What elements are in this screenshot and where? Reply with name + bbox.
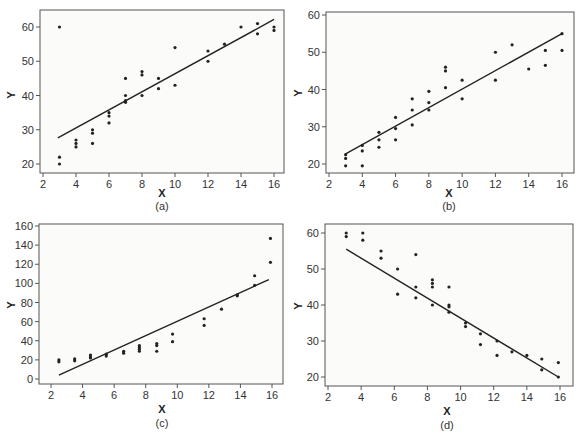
panel-caption: (a) [155, 200, 168, 212]
x-axis: 246810121416 [48, 384, 278, 401]
data-point [91, 132, 94, 135]
data-point [377, 131, 380, 134]
x-tick-label: 8 [426, 178, 432, 190]
y-tick-label: 40 [21, 335, 33, 347]
data-point [394, 138, 397, 141]
x-tick-label: 2 [326, 178, 332, 190]
x-tick-label: 12 [488, 391, 500, 403]
x-tick-label: 6 [111, 389, 117, 401]
data-point [431, 278, 434, 281]
y-axis-title: Y [292, 302, 304, 310]
y-tick-label: 40 [307, 299, 319, 311]
x-tick-label: 12 [489, 178, 501, 190]
data-point [414, 253, 417, 256]
y-tick-label: 20 [21, 354, 33, 366]
data-point [58, 156, 61, 159]
data-point [444, 66, 447, 69]
x-tick-label: 16 [556, 178, 568, 190]
y-tick-label: 50 [307, 263, 319, 275]
x-tick-label: 14 [523, 178, 535, 190]
x-tick-label: 12 [202, 178, 214, 190]
data-point [444, 86, 447, 89]
x-tick-label: 12 [203, 389, 215, 401]
data-point [411, 108, 414, 111]
data-point [58, 25, 61, 28]
x-tick-label: 2 [40, 178, 46, 190]
x-tick-label: 4 [80, 389, 86, 401]
data-point [74, 145, 77, 148]
data-point [269, 237, 272, 240]
y-tick-label: 20 [22, 158, 34, 170]
data-point [122, 352, 125, 355]
data-point [414, 285, 417, 288]
data-point [510, 43, 513, 46]
data-point [155, 350, 158, 353]
data-point [361, 149, 364, 152]
x-tick-label: 16 [266, 389, 278, 401]
data-point [107, 114, 110, 117]
y-tick-label: 30 [307, 335, 319, 347]
x-tick-label: 14 [234, 389, 246, 401]
y-axis: 2030405060 [22, 21, 40, 170]
x-tick-label: 16 [268, 178, 280, 190]
data-point [495, 354, 498, 357]
data-point [74, 138, 77, 141]
y-tick-label: 60 [307, 227, 319, 239]
y-axis-title: Y [5, 301, 17, 309]
x-axis-title: X [443, 405, 451, 417]
x-tick-label: 14 [521, 391, 533, 403]
data-point [105, 354, 108, 357]
data-point [74, 142, 77, 145]
data-point [544, 64, 547, 67]
x-tick-label: 2 [325, 391, 331, 403]
y-tick-label: 80 [21, 297, 33, 309]
data-point [414, 296, 417, 299]
x-tick-label: 10 [456, 178, 468, 190]
data-point [431, 282, 434, 285]
y-tick-label: 60 [308, 9, 320, 21]
data-point [89, 356, 92, 359]
y-tick-label: 120 [15, 258, 33, 270]
x-tick-label: 4 [359, 178, 365, 190]
data-point [171, 332, 174, 335]
data-point [256, 32, 259, 35]
data-point [540, 368, 543, 371]
x-tick-label: 8 [143, 389, 149, 401]
data-point [540, 357, 543, 360]
panel-caption: (b) [442, 200, 455, 212]
x-tick-label: 8 [139, 178, 145, 190]
data-point [396, 267, 399, 270]
data-point [171, 340, 174, 343]
data-point [344, 164, 347, 167]
y-axis: 2030405060 [307, 227, 325, 383]
data-point [58, 162, 61, 165]
data-point [91, 128, 94, 131]
data-point [461, 79, 464, 82]
data-point [124, 94, 127, 97]
plot-frame [326, 12, 574, 173]
y-tick-label: 30 [308, 121, 320, 133]
x-tick-label: 10 [454, 391, 466, 403]
y-tick-label: 20 [307, 371, 319, 383]
data-point [345, 235, 348, 238]
data-point [377, 138, 380, 141]
x-tick-label: 4 [358, 391, 364, 403]
data-point [107, 111, 110, 114]
data-point [377, 146, 380, 149]
data-point [107, 121, 110, 124]
y-axis-title: Y [292, 89, 304, 97]
x-axis-title: X [445, 187, 453, 199]
data-point [479, 332, 482, 335]
data-point [253, 274, 256, 277]
data-point [203, 317, 206, 320]
y-tick-label: 60 [21, 316, 33, 328]
x-tick-label: 16 [554, 391, 566, 403]
data-point [525, 354, 528, 357]
data-point [494, 51, 497, 54]
data-point [527, 67, 530, 70]
y-tick-label: 50 [308, 46, 320, 58]
data-point [73, 359, 76, 362]
data-point [203, 324, 206, 327]
data-point [157, 87, 160, 90]
x-tick-label: 10 [171, 389, 183, 401]
